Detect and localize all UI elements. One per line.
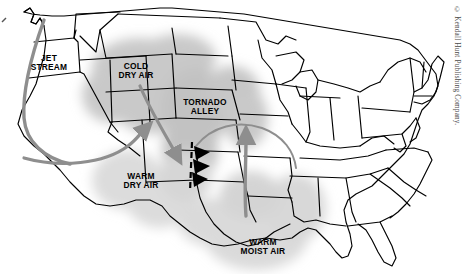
- border-fl-peninsula: [358, 222, 396, 266]
- label-warm-dry-air: WARM DRY AIR: [108, 172, 174, 190]
- copyright-notice: © Kendall Hunt Publishing Company.: [453, 6, 461, 125]
- warm-moist-air-arrow: [245, 138, 246, 216]
- left-edge-partial-mark: [2, 18, 6, 22]
- label-tornado-alley: TORNADO ALLEY: [168, 98, 242, 116]
- tornado-alley-map-figure: JET STREAM COLD DRY AIR TORNADO ALLEY WA…: [0, 0, 462, 274]
- label-warm-moist-air: WARM MOIST AIR: [222, 238, 304, 256]
- label-cold-dry-air: COLD DRY AIR: [103, 62, 169, 80]
- state-boundaries-layer: [18, 8, 444, 266]
- label-jet-stream: JET STREAM: [18, 54, 80, 72]
- us-map-svg: [0, 0, 462, 274]
